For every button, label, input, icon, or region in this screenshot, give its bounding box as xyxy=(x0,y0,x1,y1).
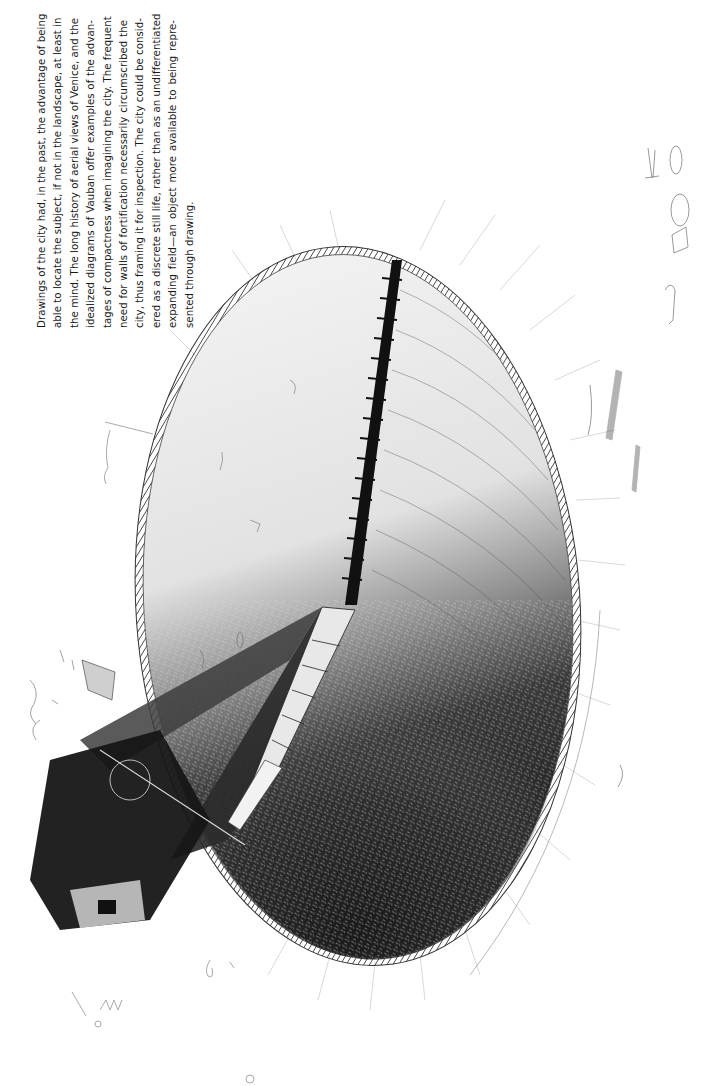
caption-line: Drawings of the city had, in the past, t… xyxy=(34,20,50,328)
page: Drawings of the city had, in the past, t… xyxy=(0,0,706,1086)
caption-block: Drawings of the city had, in the past, t… xyxy=(34,20,198,328)
caption-line: the mind. The long history of aerial vie… xyxy=(67,20,83,328)
caption-line: tages of compactness when imagining the … xyxy=(100,20,116,328)
caption-line: sented through drawing. xyxy=(182,20,198,328)
caption-line: city, thus framing it for inspection. Th… xyxy=(132,20,148,328)
caption-line: expanding field—an object more available… xyxy=(165,20,181,328)
caption-line: idealized diagrams of Vauban offer examp… xyxy=(83,20,99,328)
caption-line: able to locate the subject, if not in th… xyxy=(50,20,66,328)
caption-line: ered as a discrete still life, rather th… xyxy=(149,20,165,328)
caption-text: Drawings of the city had, in the past, t… xyxy=(34,20,198,328)
margin-sketches xyxy=(588,146,689,787)
caption-line: need for walls of fortification necessar… xyxy=(116,20,132,328)
